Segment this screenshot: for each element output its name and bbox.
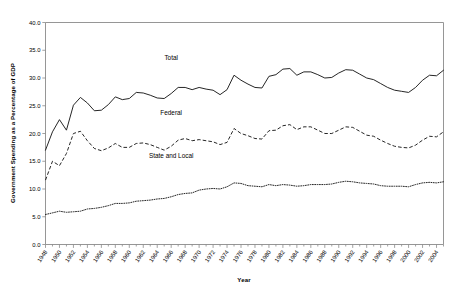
y-tick-label: 15.0: [29, 158, 41, 164]
x-tick-label: 1954: [78, 249, 91, 264]
x-tick-label: 1994: [357, 249, 370, 264]
y-tick-label: 40.0: [29, 20, 41, 26]
x-tick-label: 1956: [92, 249, 105, 264]
series-label-total: Total: [164, 54, 178, 61]
x-axis-title: Year: [237, 276, 251, 283]
x-tick-label: 1972: [204, 249, 216, 263]
x-tick-label: 1970: [190, 249, 203, 264]
y-tick-label: 25.0: [29, 103, 41, 109]
series-labels: TotalFederalState and Local: [149, 54, 193, 159]
chart-container: 0.05.010.015.020.025.030.035.040.0 19481…: [0, 0, 459, 292]
x-tick-label: 1980: [260, 249, 273, 264]
x-tick-label: 1968: [176, 249, 189, 264]
y-tick-label: 30.0: [29, 75, 41, 81]
x-tick-label: 2004: [427, 249, 440, 264]
series-line-total: [46, 69, 444, 151]
y-tick-label: 35.0: [29, 47, 41, 53]
data-series-group: [46, 69, 444, 215]
x-tick-label: 1952: [64, 249, 76, 263]
x-tick-label: 1974: [218, 249, 231, 264]
x-tick-label: 2002: [413, 249, 425, 263]
series-label-state-and-local: State and Local: [149, 152, 193, 159]
x-tick-label: 1998: [385, 249, 398, 264]
x-tick-label: 1960: [120, 249, 133, 264]
x-tick-label: 1948: [36, 249, 49, 264]
x-tick-label: 1966: [162, 249, 175, 264]
x-tick-label: 1984: [287, 249, 300, 264]
y-axis-ticks: 0.05.010.015.020.025.030.035.040.0: [29, 20, 45, 248]
y-tick-label: 10.0: [29, 186, 41, 192]
x-tick-label: 1992: [343, 249, 355, 263]
y-axis-title: Government Spending as a Percentage of G…: [9, 63, 16, 203]
series-line-federal: [46, 125, 444, 180]
y-tick-label: 20.0: [29, 131, 41, 137]
x-tick-label: 1950: [50, 249, 63, 264]
x-tick-label: 1986: [301, 249, 314, 264]
x-tick-label: 1962: [134, 249, 146, 263]
x-tick-label: 1958: [106, 249, 119, 264]
x-tick-label: 1964: [148, 249, 161, 264]
plot-frame: [46, 23, 444, 245]
x-tick-label: 1996: [371, 249, 384, 264]
y-tick-label: 0.0: [32, 242, 41, 248]
x-tick-label: 1982: [273, 249, 285, 263]
x-tick-label: 2000: [399, 249, 412, 264]
axes: [46, 23, 444, 245]
government-spending-line-chart: 0.05.010.015.020.025.030.035.040.0 19481…: [0, 0, 459, 292]
x-tick-label: 1978: [246, 249, 259, 264]
series-label-federal: Federal: [160, 109, 182, 116]
y-tick-label: 5.0: [32, 214, 41, 220]
x-tick-label: 1988: [315, 249, 328, 264]
x-axis-ticks: 1948195019521954195619581960196219641966…: [36, 245, 443, 264]
x-tick-label: 1976: [232, 249, 245, 264]
series-line-state-and-local: [46, 181, 444, 214]
x-tick-label: 1990: [329, 249, 342, 264]
